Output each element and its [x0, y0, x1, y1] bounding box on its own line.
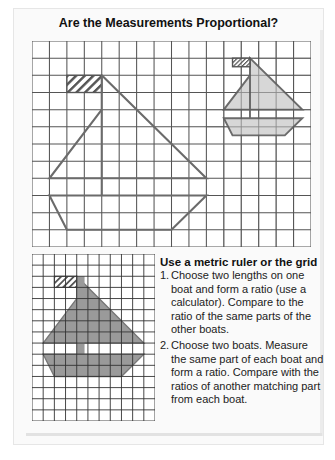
instruction-number: 1. — [160, 269, 171, 337]
instructions-list: 1. Choose two lengths on one boat and fo… — [160, 269, 325, 407]
instructions-panel: Use a metric ruler or the grid 1. Choose… — [160, 256, 325, 409]
large-grid — [32, 41, 311, 247]
instruction-text: Choose two boats. Measure the same part … — [171, 339, 325, 407]
instruction-number: 2. — [160, 339, 171, 407]
small-grid — [32, 254, 155, 421]
instructions-heading: Use a metric ruler or the grid — [160, 256, 325, 268]
large-boat-flag — [67, 75, 102, 92]
instruction-text: Choose two lengths on one boat and form … — [171, 269, 325, 337]
card-shadow-bottom — [26, 433, 322, 436]
page-title: Are the Measurements Proportional? — [13, 16, 324, 30]
instruction-item: 1. Choose two lengths on one boat and fo… — [160, 269, 325, 337]
shaded-boat-mast — [77, 276, 85, 354]
instruction-item: 2. Choose two boats. Measure the same pa… — [160, 339, 325, 407]
